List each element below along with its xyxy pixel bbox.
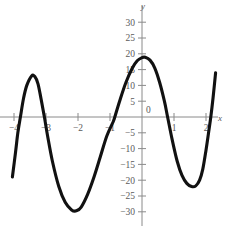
plot-canvas: −4−3−2−11230252015105−5−10−15−20−25−300x… [0,0,227,226]
y-tick-label: −15 [120,160,135,170]
x-axis-label: x [217,113,222,123]
x-tick-label: −2 [73,123,83,133]
y-tick-label: −5 [125,128,135,138]
y-tick-label: 25 [126,33,136,43]
origin-label: 0 [146,105,151,115]
y-tick-label: −20 [120,176,135,186]
y-tick-label: −30 [120,207,135,217]
y-tick-label: −25 [120,191,135,201]
function-curve [12,57,215,211]
y-tick-label: 20 [126,49,136,59]
x-tick-label: 1 [172,123,177,133]
y-axis-label: y [140,1,145,11]
y-tick-label: 5 [130,97,135,107]
y-tick-label: −10 [120,144,135,154]
function-graph-figure: −4−3−2−11230252015105−5−10−15−20−25−300x… [0,0,227,226]
y-tick-label: 30 [126,18,136,28]
